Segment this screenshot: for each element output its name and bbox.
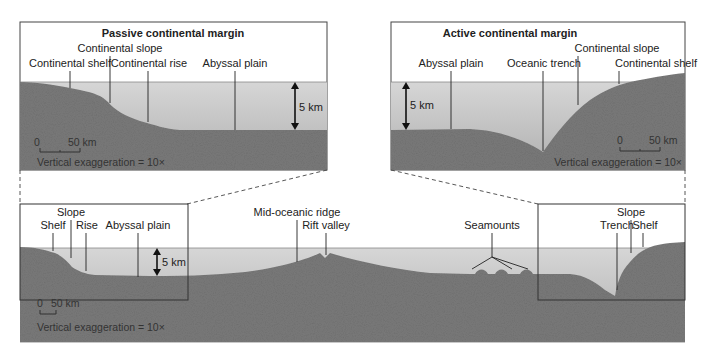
label-continental-rise: Continental rise [111,57,187,69]
passive-exaggeration: Vertical exaggeration = 10× [37,156,165,168]
label-rift-valley: Rift valley [302,219,350,231]
label-seamounts: Seamounts [464,219,520,231]
passive-scale-zero: 0 [34,136,40,148]
overview-depth-label: 5 km [162,256,186,268]
label-overview-trench: Trench [600,219,634,231]
label-continental-slope: Continental slope [77,42,162,54]
overview-exaggeration: Vertical exaggeration = 10× [37,321,165,333]
passive-depth-label: 5 km [299,101,323,113]
zoom-connector-lines [20,170,685,204]
label-oceanic-trench: Oceanic trench [507,57,581,69]
active-margin-panel: Active continental margin Continental sl… [391,22,698,170]
overview-scale-zero: 0 [37,297,43,309]
label-overview-rise: Rise [76,219,98,231]
label-overview-abyssal-plain: Abyssal plain [106,219,171,231]
label-active-abyssal-plain: Abyssal plain [419,57,484,69]
passive-scale-end: 50 km [68,136,97,148]
passive-panel-title: Passive continental margin [102,27,245,39]
ocean-floor-diagram: Passive continental margin Continental s… [0,0,707,350]
active-exaggeration: Vertical exaggeration = 10× [554,156,682,168]
active-scale-end: 50 km [649,134,678,146]
active-panel-title: Active continental margin [443,27,578,39]
label-overview-shelf-right: Shelf [632,219,658,231]
label-mid-oceanic-ridge: Mid-oceanic ridge [254,206,341,218]
label-continental-shelf: Continental shelf [29,57,112,69]
label-active-continental-slope: Continental slope [574,42,659,54]
active-depth-label: 5 km [410,99,434,111]
passive-margin-panel: Passive continental margin Continental s… [20,22,327,170]
label-overview-shelf-left: Shelf [40,219,66,231]
active-scale-zero: 0 [617,134,623,146]
label-overview-slope-left: Slope [57,206,85,218]
label-abyssal-plain: Abyssal plain [203,57,268,69]
label-active-continental-shelf: Continental shelf [615,57,698,69]
overview-panel: Slope Shelf Rise Abyssal plain Mid-ocean… [20,204,685,342]
overview-scale-end: 50 km [51,297,80,309]
label-overview-slope-right: Slope [617,206,645,218]
